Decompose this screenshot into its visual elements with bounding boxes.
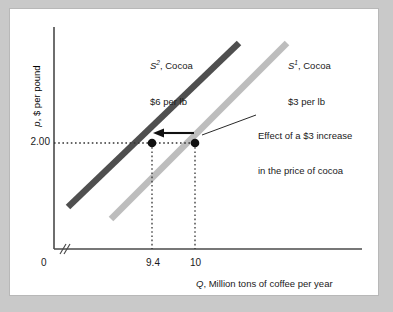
shift-annotation-line1: Effect of a $3 increase: [258, 130, 352, 142]
y-axis-title-var: p: [31, 121, 42, 126]
y-tick-label-200: 2.00: [20, 136, 50, 149]
shift-annotation-line2: in the price of cocoa: [258, 165, 352, 177]
curve-label-s1-rest: , Cocoa: [298, 60, 331, 71]
figure-root: p, $ per pound 2.00 0 9.4 10 Q, Million …: [0, 0, 393, 312]
figure-card: p, $ per pound 2.00 0 9.4 10 Q, Million …: [9, 8, 379, 296]
equilibrium-point-original: [191, 139, 200, 148]
x-axis-title-rest: , Million tons of coffee per year: [203, 278, 332, 289]
shift-annotation: Effect of a $3 increase in the price of …: [258, 106, 352, 201]
curve-label-s2-rest: , Cocoa: [160, 60, 193, 71]
y-axis-title-rest: , $ per pound: [31, 65, 42, 121]
curve-label-s1-line1: S1, Cocoa: [288, 59, 331, 72]
x-tick-label-origin: 0: [41, 257, 47, 270]
curve-label-s2-line1: S2, Cocoa: [150, 59, 193, 72]
x-tick-label-10: 10: [183, 257, 208, 270]
y-axis-title: p, $ per pound: [26, 41, 44, 151]
curve-label-s2: S2, Cocoa $6 per lb: [150, 35, 193, 131]
x-tick-label-94: 9.4: [139, 257, 167, 270]
curve-label-s2-line2: $6 per lb: [150, 96, 193, 108]
x-axis-title: Q, Million tons of coffee per year: [196, 278, 333, 290]
equilibrium-point-new: [148, 139, 157, 148]
